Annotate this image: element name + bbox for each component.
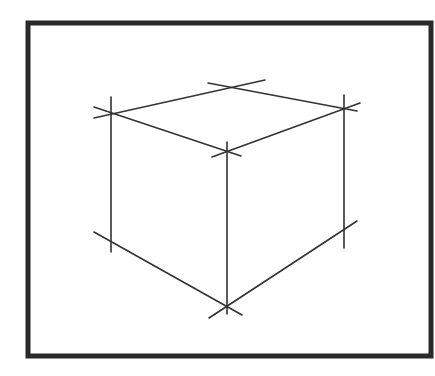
top-left-to-back-edge bbox=[94, 80, 265, 118]
perspective-cube-diagram bbox=[0, 0, 435, 376]
diagram-frame bbox=[28, 23, 431, 356]
bottom-left-to-front-edge bbox=[94, 232, 242, 315]
top-front-to-right-edge bbox=[212, 103, 360, 157]
bottom-front-to-right-edge bbox=[209, 221, 357, 318]
top-left-to-front-edge bbox=[94, 107, 241, 156]
cube-construction-lines bbox=[94, 80, 360, 318]
top-back-to-right-edge bbox=[208, 83, 357, 111]
